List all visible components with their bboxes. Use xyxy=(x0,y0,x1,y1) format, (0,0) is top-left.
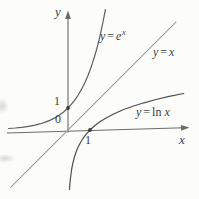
point-dot-0-1 xyxy=(66,106,70,110)
identity-label-rhs: x xyxy=(169,45,174,59)
y-unit-tick-label: 1 xyxy=(54,95,60,107)
function-graph-figure: y x 0 1 1 y=ex y=x y=ln x xyxy=(0,0,199,199)
x-axis xyxy=(7,128,184,133)
x-unit-tick-label: 1 xyxy=(85,134,91,146)
x-axis-label: x xyxy=(179,133,185,146)
exp-label-lhs: y xyxy=(100,29,105,43)
log-label-lhs: y xyxy=(136,105,141,119)
log-label-equals: = xyxy=(143,105,150,119)
exp-curve xyxy=(9,10,106,129)
identity-label-lhs: y xyxy=(153,45,158,59)
x-axis-arrow-icon xyxy=(181,125,190,131)
log-label-arg: x xyxy=(164,105,169,119)
curve-label-exp: y=ex xyxy=(100,30,126,42)
point-dot-1-0 xyxy=(88,128,92,132)
exp-label-superscript: x xyxy=(122,27,126,37)
curve-label-log: y=ln x xyxy=(136,106,170,118)
identity-label-equals: = xyxy=(160,45,167,59)
y-axis-arrow-icon xyxy=(65,11,71,20)
curve-label-identity: y=x xyxy=(153,46,174,58)
log-label-function: ln xyxy=(152,105,161,119)
exp-label-equals: = xyxy=(107,29,114,43)
y-axis-label: y xyxy=(55,5,61,18)
exp-label-base: e xyxy=(116,29,121,43)
origin-tick-label: 0 xyxy=(55,113,61,125)
